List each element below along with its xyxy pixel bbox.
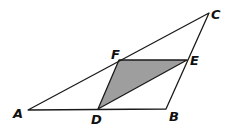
- label-a: A: [12, 106, 23, 121]
- label-c: C: [211, 7, 221, 22]
- label-b: B: [169, 109, 179, 124]
- label-e: E: [190, 53, 199, 68]
- shaded-region-dfe: [98, 60, 187, 109]
- label-d: D: [91, 112, 102, 127]
- diagram-canvas: A B C D E F: [0, 0, 233, 132]
- geometry-diagram: A B C D E F: [0, 0, 233, 132]
- label-f: F: [111, 47, 120, 62]
